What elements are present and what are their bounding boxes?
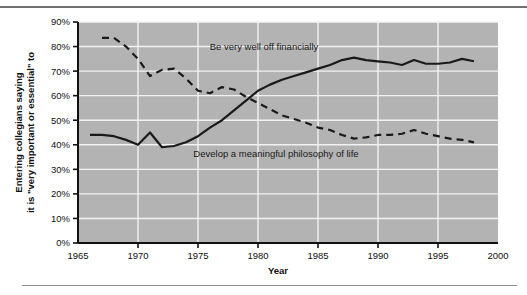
figure-container: 0%10%20%30%40%50%60%70%80%90%19651970197… xyxy=(0,0,527,295)
y-tick-label: 90% xyxy=(51,16,71,27)
x-tick-label: 1980 xyxy=(247,250,268,261)
series-label-2: Develop a meaningful philosophy of life xyxy=(193,148,358,159)
x-tick-label: 1990 xyxy=(367,250,388,261)
x-tick-label: 1995 xyxy=(427,250,448,261)
x-tick-label: 1965 xyxy=(67,250,88,261)
y-tick-label: 80% xyxy=(51,41,71,52)
bottom-divider-rule xyxy=(22,285,517,286)
x-tick-label: 1970 xyxy=(127,250,148,261)
y-tick-label: 60% xyxy=(51,90,71,101)
y-tick-label: 30% xyxy=(51,164,71,175)
x-tick-label: 2000 xyxy=(487,250,508,261)
y-axis-title-line-1: Entering collegians saying xyxy=(13,72,24,193)
chart-area: 0%10%20%30%40%50%60%70%80%90%19651970197… xyxy=(0,8,527,280)
series-label-1: Be very well off financially xyxy=(210,41,319,52)
line-chart: 0%10%20%30%40%50%60%70%80%90%19651970197… xyxy=(0,8,527,280)
y-axis-title-line-2: it is "very important or essential" to xyxy=(25,52,36,213)
x-axis-title: Year xyxy=(268,265,288,276)
x-tick-label: 1985 xyxy=(307,250,328,261)
y-tick-label: 50% xyxy=(51,115,71,126)
y-tick-label: 40% xyxy=(51,139,71,150)
y-tick-label: 0% xyxy=(56,237,70,248)
y-tick-label: 70% xyxy=(51,66,71,77)
plot-background xyxy=(78,22,498,243)
x-tick-label: 1975 xyxy=(187,250,208,261)
y-tick-label: 20% xyxy=(51,188,71,199)
y-tick-label: 10% xyxy=(51,213,71,224)
